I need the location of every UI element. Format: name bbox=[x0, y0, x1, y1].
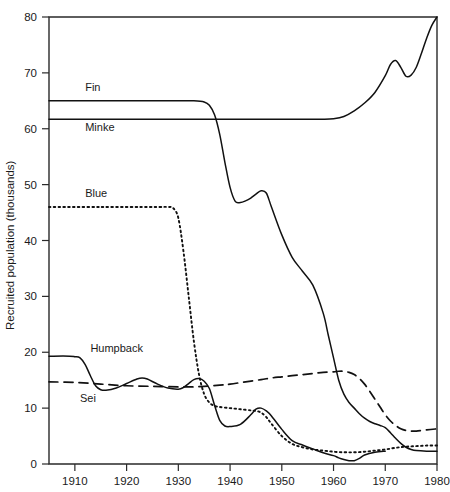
x-tick-label: 1940 bbox=[217, 475, 243, 487]
x-axis-tick-marks bbox=[75, 464, 437, 471]
whale-population-chart: Recruited population (thousands) 0102030… bbox=[0, 0, 450, 492]
y-axis-tick-marks bbox=[42, 17, 49, 464]
x-tick-label: 1910 bbox=[62, 475, 88, 487]
y-tick-label: 0 bbox=[31, 458, 37, 470]
series-line-minke bbox=[49, 17, 437, 119]
y-tick-label: 30 bbox=[24, 290, 37, 302]
x-tick-label: 1930 bbox=[166, 475, 192, 487]
y-axis-tick-labels: 01020304050607080 bbox=[24, 11, 37, 470]
y-axis-title: Recruited population (thousands) bbox=[4, 160, 16, 330]
series-label-humpback: Humpback bbox=[90, 342, 143, 354]
y-tick-label: 70 bbox=[24, 67, 37, 79]
series-labels-group: FinMinkeBlueHumpbackSei bbox=[80, 81, 143, 404]
plot-frame bbox=[49, 17, 437, 464]
y-tick-label: 40 bbox=[24, 235, 37, 247]
y-tick-label: 10 bbox=[24, 402, 37, 414]
y-tick-label: 80 bbox=[24, 11, 37, 23]
x-tick-label: 1960 bbox=[321, 475, 347, 487]
x-tick-label: 1970 bbox=[372, 475, 398, 487]
series-lines-group bbox=[49, 17, 437, 461]
series-label-minke: Minke bbox=[85, 121, 114, 133]
series-label-blue: Blue bbox=[85, 187, 107, 199]
y-tick-label: 20 bbox=[24, 346, 37, 358]
x-tick-label: 1950 bbox=[269, 475, 295, 487]
y-axis-title-group: Recruited population (thousands) bbox=[4, 160, 16, 330]
series-line-fin bbox=[49, 101, 437, 451]
plot-border bbox=[49, 17, 437, 464]
series-line-blue bbox=[49, 207, 437, 452]
x-axis-tick-labels: 19101920193019401950196019701980 bbox=[62, 475, 450, 487]
y-tick-label: 50 bbox=[24, 179, 37, 191]
x-tick-label: 1920 bbox=[114, 475, 140, 487]
x-tick-label: 1980 bbox=[424, 475, 450, 487]
y-tick-label: 60 bbox=[24, 123, 37, 135]
series-label-fin: Fin bbox=[85, 81, 100, 93]
series-label-sei: Sei bbox=[80, 392, 96, 404]
chart-canvas: Recruited population (thousands) 0102030… bbox=[0, 0, 450, 492]
